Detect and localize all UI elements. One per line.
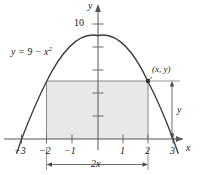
point-label-leader <box>149 77 153 81</box>
x-tick-label--3: −3 <box>14 146 26 156</box>
x-tick-label-3: 3 <box>170 146 175 156</box>
inscribed-rectangle <box>47 81 149 139</box>
y-tick-label-10: 10 <box>74 18 84 28</box>
x-tick-label--2: −2 <box>39 146 51 156</box>
curve-equation-label: y = 9 − x2 <box>11 47 52 57</box>
height-dimension <box>149 81 181 139</box>
y-axis-arrow-icon <box>95 4 101 12</box>
x-tick-label-1: 1 <box>120 146 125 156</box>
curve-equation-exponent: 2 <box>48 45 52 53</box>
height-dimension-label: y <box>177 105 181 115</box>
curve-equation-text: y = 9 − x <box>11 46 48 57</box>
y-axis-label: y <box>88 1 92 11</box>
figure-parabola-rectangle: y x 10 y = 9 − x2 (x, y) 2x y −3 −2 −1 1… <box>0 0 202 175</box>
x-axis-label: x <box>186 143 190 153</box>
width-dimension-label: 2x <box>91 159 100 169</box>
corner-point-label: (x, y) <box>152 65 170 74</box>
x-tick-label-2: 2 <box>145 146 150 156</box>
x-tick-label--1: −1 <box>64 146 76 156</box>
